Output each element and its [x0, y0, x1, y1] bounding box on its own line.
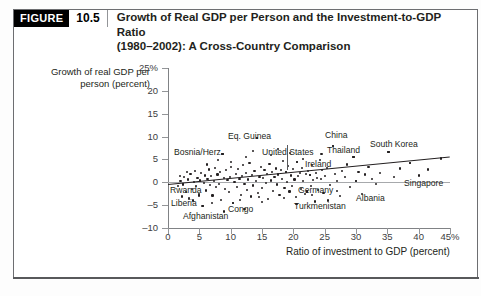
scatter-point: [263, 169, 265, 171]
scatter-point: [235, 173, 237, 175]
country-label: Singapore: [404, 179, 443, 188]
figure-root: FIGURE 10.5 Growth of Real GDP per Perso…: [0, 0, 481, 296]
figure-number: 10.5: [69, 10, 107, 27]
scatter-point: [255, 180, 257, 182]
scatter-point: [427, 168, 429, 170]
x-tick-label: 10: [218, 232, 244, 242]
page-title: Growth of Real GDP per Person and the In…: [108, 10, 447, 54]
x-tick-label: 40: [406, 232, 432, 242]
figure-header: FIGURE 10.5 Growth of Real GDP per Perso…: [14, 10, 447, 54]
x-tick-label: 5: [186, 232, 212, 242]
scatter-point: [283, 197, 285, 199]
scatter-point: [250, 195, 252, 197]
scatter-point: [270, 179, 272, 181]
y-tick-label: 10: [118, 132, 158, 141]
country-label: Thailand: [327, 146, 360, 155]
country-label: Germany: [298, 186, 333, 195]
x-axis-line: [168, 228, 451, 229]
x-axis-title: Ratio of investment to GDP (percent): [286, 246, 450, 257]
scatter-point: [253, 170, 255, 172]
scatter-point: [240, 194, 242, 196]
country-label: Turkmenistan: [294, 202, 346, 211]
scatter-point: [179, 175, 181, 177]
scatter-point: [418, 174, 420, 176]
scatter-point: [339, 195, 341, 197]
scatter-point: [208, 168, 210, 170]
country-label: Congo: [228, 205, 253, 214]
y-tick-label: 5: [118, 154, 158, 163]
scatter-point: [271, 171, 273, 173]
figure-title-line2: (1980–2002): A Cross-Country Comparison: [117, 39, 447, 54]
scatter-point: [248, 162, 250, 164]
scatter-point: [211, 194, 213, 196]
annotated-point: [387, 151, 389, 153]
country-label: Bosnia/Herz: [174, 148, 221, 157]
scatter-point: [218, 183, 220, 185]
x-tick-label: 45%: [437, 232, 463, 242]
figure-baseline-rule: [13, 277, 479, 279]
y-tick-label: –10: [118, 223, 158, 232]
scatter-point: [268, 163, 270, 165]
scatter-point: [334, 173, 336, 175]
label-leader-line: [287, 145, 288, 170]
x-tick-label: 15: [249, 232, 275, 242]
scatter-point: [302, 158, 304, 160]
country-label: China: [325, 131, 347, 140]
y-tick-label: 15: [118, 109, 158, 118]
scatter-point: [187, 178, 189, 180]
scatter-point: [367, 166, 369, 168]
scatter-point: [189, 173, 191, 175]
y-tick-label: 20: [118, 86, 158, 95]
country-label: Liberia: [171, 199, 197, 208]
scatter-point: [286, 181, 288, 183]
scatter-point: [216, 173, 218, 175]
scatter-point: [265, 182, 267, 184]
x-tick-label: 0: [155, 232, 181, 242]
x-tick-label: 30: [343, 232, 369, 242]
country-label: Ireland: [305, 160, 331, 169]
annotated-point: [309, 174, 311, 176]
scatter-point: [299, 172, 301, 174]
scatter-point: [238, 178, 240, 180]
scatter-point: [278, 194, 280, 196]
scatter-point: [283, 187, 285, 189]
country-label: Eq. Guinea: [228, 132, 271, 141]
country-label: South Korea: [370, 140, 418, 149]
scatter-point: [245, 172, 247, 174]
scatter-point: [275, 167, 277, 169]
y-tick-label: 25%: [118, 63, 158, 72]
scatter-point: [324, 175, 326, 177]
y-tick-label: 0: [118, 177, 158, 186]
scatter-point: [399, 167, 401, 169]
scatter-point: [243, 183, 245, 185]
scatter-point: [364, 173, 366, 175]
country-label: Rwanda: [170, 186, 202, 195]
scatter-point: [258, 196, 260, 198]
country-label: Afghanistan: [183, 212, 228, 221]
scatter-point: [206, 163, 208, 165]
figure-badge: FIGURE: [14, 10, 69, 27]
scatter-point: [281, 178, 283, 180]
x-tick-label: 20: [280, 232, 306, 242]
annotated-point: [352, 156, 354, 158]
scatter-point: [276, 183, 278, 185]
scatter-point: [236, 186, 238, 188]
scatter-point: [293, 178, 295, 180]
scatter-point: [393, 176, 395, 178]
scatter-point: [301, 167, 303, 169]
x-tick-label: 25: [312, 232, 338, 242]
y-tick-label: –5: [118, 200, 158, 209]
figure-title-line1: Growth of Real GDP per Person and the In…: [117, 11, 441, 38]
scatter-point: [290, 174, 292, 176]
scatter-point: [204, 174, 206, 176]
country-label: Albania: [356, 194, 385, 203]
scatter-point: [288, 190, 290, 192]
x-tick-label: 35: [374, 232, 400, 242]
scatter-point: [315, 172, 317, 174]
annotated-point: [306, 190, 308, 192]
scatter-point: [320, 153, 322, 155]
